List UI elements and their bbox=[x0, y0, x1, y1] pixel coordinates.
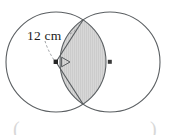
right-center-dot bbox=[108, 60, 112, 64]
geometry-canvas: 12 cm ( ) bbox=[0, 0, 170, 135]
leader-line-to-center bbox=[45, 41, 54, 60]
left-center-dot bbox=[54, 60, 58, 64]
geometry-figure: 12 cm ( ) bbox=[0, 0, 170, 135]
bottom-fragment-left-paren: ( bbox=[13, 118, 20, 135]
bottom-fragment-right-paren: ) bbox=[150, 118, 157, 135]
radius-dimension-label: 12 cm bbox=[27, 28, 62, 43]
